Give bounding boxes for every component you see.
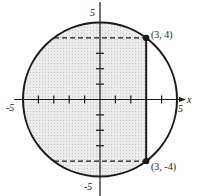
point-3-4 <box>143 35 149 41</box>
point-label-bottom: (3, -4) <box>151 161 176 173</box>
point-3-neg4 <box>143 158 149 164</box>
shaded-region <box>0 0 146 196</box>
point-label-top: (3, 4) <box>151 29 173 41</box>
y-tick-label-max: 5 <box>90 7 95 18</box>
circle-diagram: (3, 4) (3, -4) x -5 5 5 -5 <box>0 0 197 196</box>
x-axis-arrow-icon <box>179 97 186 102</box>
x-tick-label-min: -5 <box>6 102 14 113</box>
x-tick-label-max: 5 <box>178 103 183 114</box>
y-tick-label-min: -5 <box>84 181 92 192</box>
x-axis-label: x <box>186 94 192 105</box>
